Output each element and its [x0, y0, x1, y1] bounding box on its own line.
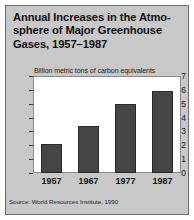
chart-title-line-2: sphere of Major Greenhouse [13, 24, 185, 37]
y-axis-tick-mark [29, 159, 33, 160]
chart-figure: Annual Increases in the Atmo- sphere of … [5, 5, 189, 215]
y-axis-tick-mark [29, 145, 33, 146]
bar [41, 144, 62, 173]
x-axis-tick-label: 1987 [144, 176, 181, 186]
source-note: Source: World Resources Institute, 1990 [9, 198, 118, 205]
y-axis-tick-mark [29, 104, 33, 105]
x-axis-tick-label: 1977 [107, 176, 144, 186]
x-axis-tick-label: 1957 [33, 176, 70, 186]
y-axis-tick-mark [29, 90, 33, 91]
bar [78, 126, 99, 173]
chart-title: Annual Increases in the Atmo- sphere of … [13, 11, 185, 51]
chart-title-line-1: Annual Increases in the Atmo- [13, 11, 185, 24]
y-axis-tick-mark [29, 76, 33, 77]
y-axis-tick-mark [29, 118, 33, 119]
chart-subtitle: Billion metric tons of carbon equivalent… [34, 67, 155, 74]
y-axis-tick-mark [29, 131, 33, 132]
bar [152, 91, 173, 173]
bar [115, 104, 136, 173]
chart-title-line-3: Gases, 1957–1987 [13, 38, 185, 51]
chart-plot-area: Billion metric tons of carbon equivalent… [10, 66, 186, 188]
y-axis-tick-mark [29, 173, 33, 174]
x-axis-tick-label: 1967 [70, 176, 107, 186]
y-axis-tick-label: 7 [166, 72, 186, 80]
